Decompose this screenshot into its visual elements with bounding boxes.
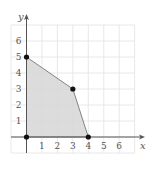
vertex-point	[70, 86, 75, 91]
x-tick-label: 5	[101, 141, 107, 151]
x-tick-label: 3	[70, 141, 76, 151]
x-axis-label: x	[140, 140, 146, 151]
feasible-region-chart: 123456 123456 x y	[0, 0, 153, 171]
y-tick-label: 6	[16, 36, 22, 46]
y-tick-label: 4	[16, 68, 22, 78]
vertex-point	[24, 54, 29, 59]
vertex-point	[24, 134, 29, 139]
x-tick-label: 2	[55, 141, 61, 151]
x-tick-label: 1	[39, 141, 45, 151]
y-tick-label: 2	[16, 100, 22, 110]
x-tick-label: 6	[116, 141, 122, 151]
y-axis-label: y	[17, 11, 24, 22]
y-tick-label: 5	[16, 52, 22, 62]
y-tick-labels: 123456	[16, 36, 22, 126]
x-tick-labels: 123456	[39, 141, 122, 151]
y-tick-label: 3	[16, 84, 22, 94]
vertex-point	[86, 134, 91, 139]
x-tick-label: 4	[85, 141, 91, 151]
y-tick-label: 1	[16, 116, 22, 126]
